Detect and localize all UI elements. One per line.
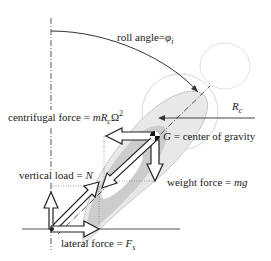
lateral-force-prefix: lateral force = [61,237,126,249]
centrifugal-force-symbol: mR [93,111,108,123]
radius-symbol: R [232,100,239,112]
vertical-load-symbol: N [85,169,92,181]
center-of-gravity-label: G = center of gravity [163,131,255,142]
contact-point [50,227,54,231]
weight-force-label: weight force = mg [167,177,247,188]
roll-angle-subscript: i [171,37,173,46]
cog-text: = center of gravity [171,130,255,142]
radius-subscript: c [239,106,243,115]
vertical-load-prefix: vertical load = [19,169,85,181]
centrifugal-force-superscript: 2 [119,109,123,118]
center-of-gravity-marker [150,131,160,141]
lateral-force-label: lateral force = Fs [61,238,135,252]
diagram-canvas: roll angle=φi Rc centrifugal force = mRc… [0,0,271,261]
radius-label: Rc [232,101,242,115]
cog-symbol: G [163,130,171,142]
centrifugal-force-omega: Ω [111,111,119,123]
centrifugal-force-prefix: centrifugal force = [8,111,93,123]
rider-head-outline [200,43,250,89]
weight-force-prefix: weight force = [167,176,234,188]
centrifugal-force-label: centrifugal force = mRcΩ2 [6,110,125,126]
roll-angle-prefix: roll angle= [117,31,165,43]
vertical-load-label: vertical load = N [17,170,95,181]
weight-force-symbol: mg [234,176,247,188]
roll-angle-label: roll angle=φi [117,32,173,46]
lateral-force-subscript: s [132,243,135,252]
